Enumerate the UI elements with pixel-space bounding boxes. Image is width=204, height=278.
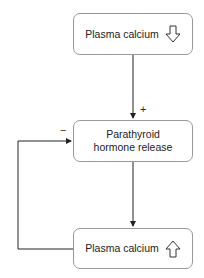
- node-plasma-calcium-high: Plasma calcium: [73, 228, 193, 269]
- node-label: Parathyroid hormone release: [88, 128, 178, 154]
- node-label: Plasma calcium: [85, 28, 159, 41]
- node-parathyroid-hormone-release: Parathyroid hormone release: [73, 120, 193, 162]
- positive-sign: +: [140, 103, 146, 115]
- negative-sign: −: [60, 124, 66, 136]
- up-arrow-icon: [165, 240, 181, 258]
- down-arrow-icon: [165, 25, 181, 43]
- node-plasma-calcium-low: Plasma calcium: [73, 13, 193, 55]
- node-label: Plasma calcium: [85, 242, 159, 255]
